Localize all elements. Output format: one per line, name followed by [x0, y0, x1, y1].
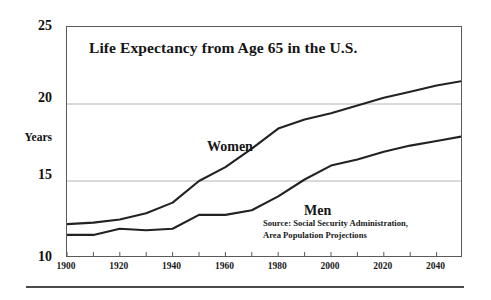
gridlines: [67, 104, 462, 181]
source-note: Source: Social Security Administration, …: [263, 217, 408, 242]
source-note-line-1: Source: Social Security Administration,: [263, 217, 408, 229]
chart-figure: 25 20 15 10 Years: [0, 0, 491, 300]
y-axis-tick-15: 15: [18, 168, 52, 182]
y-axis-tick-20: 20: [18, 91, 52, 105]
y-axis-tick-25: 25: [18, 19, 52, 33]
x-axis-tick-2020: 2020: [363, 262, 403, 272]
footer-divider: [26, 286, 464, 288]
x-axis-tick-1920: 1920: [99, 262, 139, 272]
x-axis-tick-1960: 1960: [204, 262, 244, 272]
plot-area: Life Expectancy from Age 65 in the U.S. …: [66, 26, 462, 257]
y-axis-title: Years: [6, 132, 52, 144]
x-axis-tick-2040: 2040: [416, 262, 456, 272]
chart-title: Life Expectancy from Age 65 in the U.S.: [89, 39, 357, 57]
x-axis-tick-1940: 1940: [152, 262, 192, 272]
x-axis-tick-2000: 2000: [310, 262, 350, 272]
x-axis-tick-1980: 1980: [257, 262, 297, 272]
x-axis-tick-1900: 1900: [46, 262, 86, 272]
source-note-line-2: Area Population Projections: [263, 229, 408, 241]
x-axis-ticks: [67, 252, 437, 257]
series-label-women: Women: [207, 139, 253, 155]
